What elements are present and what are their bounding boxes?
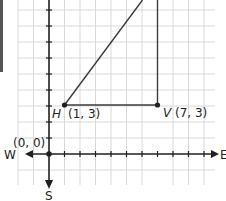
origin-label: (0, 0) xyxy=(13,136,45,150)
west-label: W xyxy=(4,148,16,162)
point-v xyxy=(155,102,160,107)
west-arrow-icon xyxy=(25,150,33,158)
point-v-coords: (7, 3) xyxy=(175,106,207,120)
grid xyxy=(18,0,215,185)
south-arrow-icon xyxy=(45,180,53,189)
origin-point xyxy=(46,151,52,157)
east-arrow-icon xyxy=(211,150,219,158)
segment-diagonal xyxy=(65,0,143,105)
point-h-coords: (1, 3) xyxy=(68,107,100,121)
coordinate-grid-diagram: H (1, 3) V (7, 3) (0, 0) W E S xyxy=(0,0,226,201)
point-h-name: H xyxy=(52,107,61,121)
east-label: E xyxy=(220,148,226,162)
edge-bar xyxy=(0,0,3,72)
point-h xyxy=(62,102,67,107)
south-label: S xyxy=(45,189,53,201)
point-v-name: V xyxy=(163,106,172,120)
